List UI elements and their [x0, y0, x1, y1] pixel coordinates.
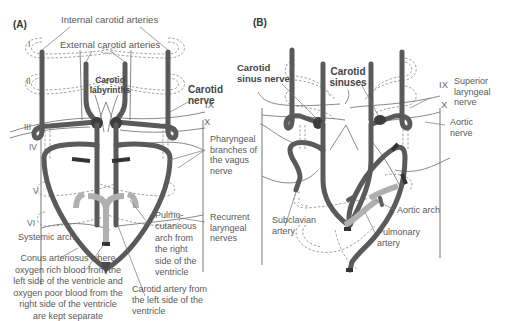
svg-text:I: I — [28, 39, 30, 49]
svg-text:VI: VI — [27, 218, 35, 228]
label-pulmonary-artery: Pulmonary artery — [377, 227, 427, 249]
svg-text:V: V — [33, 186, 39, 196]
nerve-numerals-b: IX X — [439, 79, 449, 110]
label-carotid-artery-left-ventricle: Carotid artery from the left side of the… — [132, 284, 208, 317]
label-carotid-nerve: Carotid nerve — [188, 84, 228, 106]
svg-text:IV: IV — [29, 142, 37, 152]
label-aortic-arch: Aortic arch — [397, 205, 440, 216]
svg-text:X: X — [204, 116, 211, 127]
label-aortic-nerve: Aortic nerve — [450, 117, 490, 138]
panel-a-tag: (A) — [13, 20, 27, 31]
label-conus-arteriosus: Conus arteriosus where oxygen rich blood… — [12, 253, 124, 321]
label-carotid-sinuses: Carotid sinuses — [328, 66, 368, 88]
label-internal-carotid-arteries: Internal carotid arteries — [61, 15, 158, 26]
svg-text:IX: IX — [439, 79, 449, 90]
label-recurrent-laryngeal-nerves: Recurrent laryngeal nerves — [210, 212, 264, 244]
label-systemic-arch: Systemic arch — [18, 232, 75, 243]
svg-text:X: X — [441, 99, 448, 110]
label-superior-laryngeal-nerve: Superior laryngeal nerve — [454, 76, 502, 108]
label-subclavian-artery: Subclavian artery — [272, 215, 322, 237]
label-pharyngeal-branches: Pharyngeal branches of the vagus nerve — [210, 134, 270, 176]
panel-b-tag: (B) — [253, 18, 267, 29]
svg-text:III: III — [24, 122, 31, 132]
label-carotid-labyrinths: Carotid labyrinths — [89, 75, 131, 95]
label-carotid-sinus-nerve: Carotid sinus nerve — [237, 63, 297, 84]
label-pulmocutaneous-arch: Pulmo- cutaneous arch from the right sid… — [155, 210, 203, 278]
label-external-carotid-arteries: External carotid arteries — [60, 40, 160, 51]
svg-text:II: II — [26, 76, 31, 86]
